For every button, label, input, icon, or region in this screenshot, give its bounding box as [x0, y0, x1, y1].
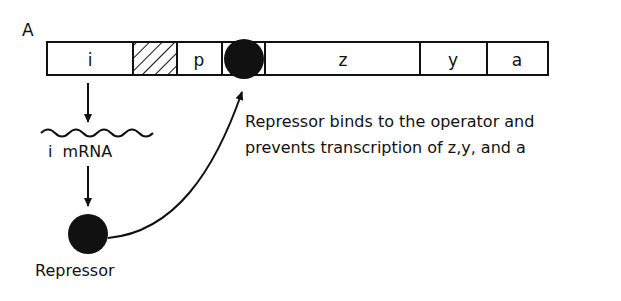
promoter-p-label: p — [194, 50, 205, 70]
bound-repressor-icon — [224, 39, 264, 79]
gene-z-label: z — [339, 50, 348, 70]
panel-label: A — [22, 20, 34, 40]
gene-a-label: a — [512, 50, 522, 70]
operon-bar — [47, 42, 548, 75]
i-promoter-segment — [133, 42, 177, 75]
lac-operon-diagram: A i p z y a i mRNA Repressor Repressor b… — [0, 0, 621, 301]
repressor-label: Repressor — [35, 261, 115, 280]
caption-line-2: prevents transcription of z,y, and a — [245, 138, 526, 157]
mrna-label: i mRNA — [48, 142, 112, 161]
mrna-wave-icon — [41, 130, 153, 137]
gene-i-label: i — [88, 50, 93, 70]
binding-arrow — [108, 92, 242, 238]
repressor-icon — [68, 214, 108, 254]
caption-line-1: Repressor binds to the operator and — [245, 112, 534, 131]
gene-y-label: y — [448, 50, 458, 70]
